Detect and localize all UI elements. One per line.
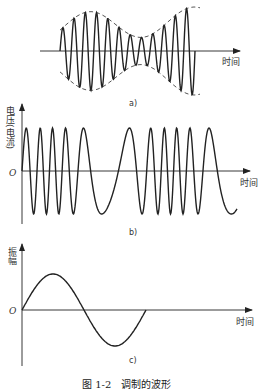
panel-a [40, 7, 240, 95]
panel-b-origin-label: O [9, 168, 16, 178]
panel-a-sublabel: a) [129, 99, 137, 108]
panel-b-x-axis-label: 时间 [240, 179, 258, 188]
panel-a-am-wave [60, 9, 195, 95]
figure-caption: 图 1-2 调制的波形 [82, 376, 171, 391]
panel-c-y-axis-label: 振幅 [7, 247, 16, 269]
panel-b-y-axis-label: 电压(电流) [5, 106, 14, 170]
panel-c-origin-label: O [9, 306, 16, 316]
panel-a-envelope-top [60, 7, 200, 37]
panel-c-sublabel: c) [129, 356, 137, 365]
panel-c [22, 244, 252, 366]
panel-c-x-axis-label: 时间 [236, 318, 254, 327]
panel-b-sublabel: b) [129, 228, 137, 237]
panel-a-x-axis-label: 时间 [222, 58, 240, 67]
panel-b [22, 104, 250, 224]
